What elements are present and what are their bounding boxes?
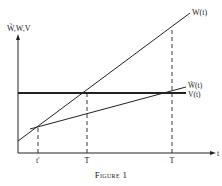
label-W: W(t) xyxy=(192,8,207,17)
figure-canvas: W(t) W̃(t) V(t) W̃,W,V t ť T̄ T xyxy=(0,0,222,186)
y-axis-label: W̃,W,V xyxy=(7,23,31,33)
curve-W xyxy=(18,13,190,141)
label-V: V(t) xyxy=(188,90,201,99)
figure-caption: Figure 1 xyxy=(0,170,222,180)
tick-T: T xyxy=(170,156,175,165)
y-axis-arrow-icon xyxy=(16,34,20,40)
label-W-tilde: W̃(t) xyxy=(188,81,203,90)
x-axis-arrow-icon xyxy=(210,151,216,155)
tick-t-check: ť xyxy=(36,156,40,165)
x-axis-label: t xyxy=(217,149,220,158)
tick-T-bar: T̄ xyxy=(85,156,90,165)
